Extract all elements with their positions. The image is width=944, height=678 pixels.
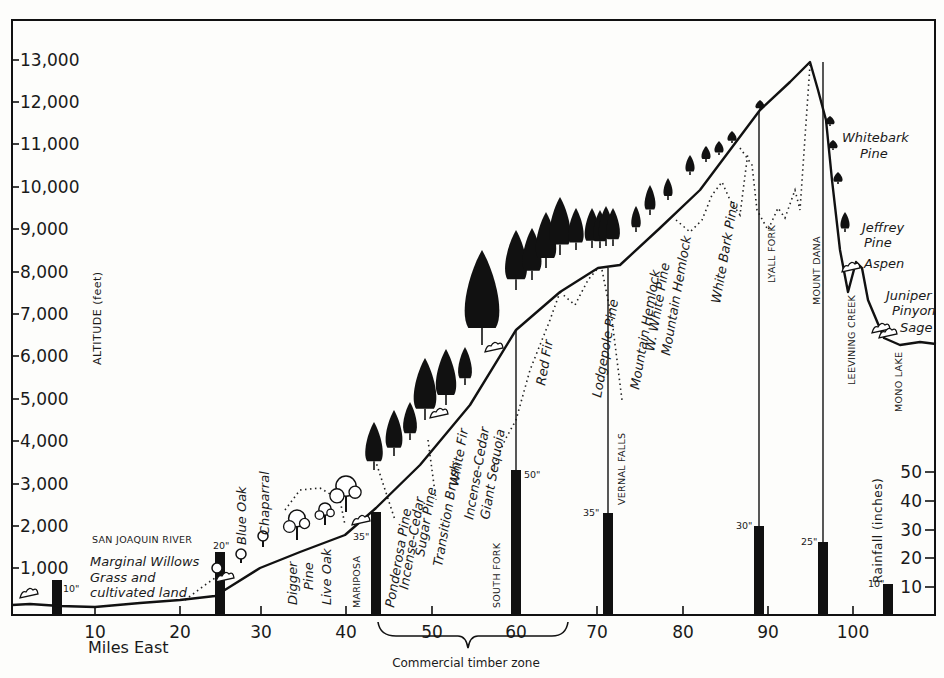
conifer-tree-icon: [414, 358, 437, 420]
rainfall-bar: [52, 580, 62, 615]
altitude-tick-label: 10,000: [20, 177, 79, 197]
place-label: VERNAL FALLS: [616, 433, 627, 505]
vegetation-label: Juniper: [883, 288, 933, 303]
conifer-tree-icon: [436, 349, 456, 405]
rainfall-bar: [818, 542, 828, 615]
altitude-tick-label: 2,000: [20, 516, 69, 536]
vegetation-label: Blue Oak: [234, 486, 249, 545]
altitude-tick-label: 1,000: [20, 558, 69, 578]
miles-tick-label: 20: [169, 622, 191, 642]
vegetation-label: cultivated land: [90, 585, 188, 600]
vegetation-label: Pine: [864, 235, 892, 250]
shrub-icon: [842, 262, 860, 272]
vegetation-label: White Bark Pine: [708, 200, 741, 305]
vegetation-label: Sage: [900, 320, 932, 335]
rainfall-bar: [754, 526, 764, 615]
conifer-tree-icon: [631, 206, 640, 232]
rainfall-bars: 10"20"35"50"35"30"25"10": [52, 62, 893, 615]
vegetation-label: Whitebark: [842, 130, 909, 145]
vegetation-label: Digger: [285, 560, 300, 605]
miles-tick-label: 90: [757, 622, 779, 642]
vegetation-label: Red Fir: [533, 337, 556, 386]
miles-tick-label: 70: [586, 622, 608, 642]
altitude-tick-label: 4,000: [20, 431, 69, 451]
rainfall-tick-label: 20: [900, 548, 922, 568]
miles-tick-label: 40: [335, 622, 357, 642]
oak-tree-icon: [330, 476, 361, 512]
conifer-tree-icon: [840, 212, 849, 232]
conifer-tree-icon: [465, 250, 500, 345]
miles-tick-label: 30: [250, 622, 272, 642]
rainfall-bar: [883, 584, 893, 615]
miles-tick-label: 60: [505, 622, 527, 642]
conifer-tree-icon: [386, 410, 403, 456]
conifer-tree-icon: [568, 208, 583, 250]
rainfall-bar-label: 20": [213, 540, 229, 551]
miles-tick-label: 80: [672, 622, 694, 642]
rainfall-bar-label: 35": [583, 507, 599, 518]
vegetation-label: Aspen: [863, 256, 904, 271]
miles-tick-label: 100: [837, 622, 869, 642]
vegetation-label: Pine: [860, 146, 888, 161]
place-label: MONO LAKE: [893, 352, 904, 412]
conifer-tree-icon: [701, 146, 710, 162]
place-label: SOUTH FORK: [491, 542, 502, 608]
conifer-tree-icon: [685, 155, 694, 175]
miles-tick-label: 50: [421, 622, 443, 642]
terrain-profile-line: [12, 62, 936, 607]
rainfall-bar-label: 25": [801, 536, 817, 547]
conifer-tree-icon: [458, 347, 472, 385]
rainfall-bar-label: 10": [63, 583, 79, 594]
miles-axis-title: Miles East: [88, 638, 168, 657]
rainfall-tick-label: 10: [900, 577, 922, 597]
altitude-axis-title: ALTITUDE (feet): [91, 271, 104, 365]
place-label: LEEVINING CREEK: [846, 295, 857, 385]
rainfall-axis-title: Rainfall (inches): [871, 478, 885, 583]
conifer-tree-icon: [663, 178, 672, 200]
rainfall-bar-label: 30": [736, 520, 752, 531]
rainfall-axis: 5040302010: [900, 462, 935, 597]
altitude-tick-label: 3,000: [20, 474, 69, 494]
oak-tree-icon: [236, 549, 246, 563]
altitude-tick-label: 9,000: [20, 219, 69, 239]
commercial-timber-zone-brace: [378, 622, 568, 648]
vegetation-label: Marginal Willows: [90, 554, 200, 569]
shrub-icon: [352, 515, 370, 525]
rainfall-bar: [371, 512, 381, 615]
place-label: SAN JOAQUIN RIVER: [92, 534, 192, 545]
oak-tree-icon: [315, 503, 334, 525]
vegetation-label: Pinyon: [892, 303, 936, 318]
shrub-icon: [430, 408, 448, 418]
conifer-tree-icon: [714, 141, 723, 155]
altitude-tick-label: 8,000: [20, 262, 69, 282]
altitude-tick-label: 5,000: [20, 389, 69, 409]
altitude-axis: 1,0002,0003,0004,0005,0006,0007,0008,000…: [12, 50, 79, 578]
commercial-timber-zone-label: Commercial timber zone: [392, 656, 540, 670]
altitude-tick-label: 11,000: [20, 134, 79, 154]
rainfall-tick-label: 40: [900, 491, 922, 511]
vegetation-label: Live Oak: [319, 548, 334, 605]
rainfall-bar-label: 50": [524, 469, 540, 480]
vegetation-label: Pine: [301, 562, 316, 590]
altitude-tick-label: 6,000: [20, 346, 69, 366]
altitude-tick-label: 12,000: [20, 92, 79, 112]
shrub-icon: [485, 342, 503, 352]
altitude-tick-label: 13,000: [20, 50, 79, 70]
rainfall-bar: [511, 470, 521, 615]
vegetation-label: Lodgepole Pine: [589, 298, 621, 398]
place-label: MOUNT DANA: [811, 236, 822, 305]
place-label: MARIPOSA: [351, 555, 362, 608]
rainfall-tick-label: 30: [900, 520, 922, 540]
conifer-tree-icon: [403, 402, 417, 440]
altitude-tick-label: 7,000: [20, 304, 69, 324]
rainfall-tick-label: 50: [900, 462, 922, 482]
conifer-tree-icon: [645, 185, 656, 215]
conifer-tree-icon: [365, 422, 383, 470]
vegetation-symbols: [20, 100, 897, 598]
rainfall-bar: [603, 513, 613, 615]
conifer-tree-icon: [833, 172, 842, 184]
oak-tree-icon: [284, 510, 310, 540]
shrub-icon: [20, 588, 38, 598]
vegetation-label: Jeffrey: [859, 220, 905, 235]
vegetation-label: Grass and: [90, 570, 156, 585]
